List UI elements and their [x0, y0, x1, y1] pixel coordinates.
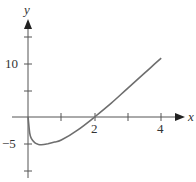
y-axis	[24, 19, 32, 178]
x-tick-label-4: 4	[157, 121, 164, 136]
y-tick-label-10: 10	[5, 56, 18, 71]
x-axis-label: x	[187, 109, 194, 124]
y-axis-label: y	[22, 2, 30, 17]
x-axis-arrow-icon	[175, 113, 185, 121]
y-tick-label-neg5: −5	[2, 136, 16, 151]
chart: x y 2 4 10 −5	[0, 0, 196, 182]
y-axis-arrow-icon	[24, 19, 32, 29]
x-tick-label-2: 2	[91, 121, 98, 136]
